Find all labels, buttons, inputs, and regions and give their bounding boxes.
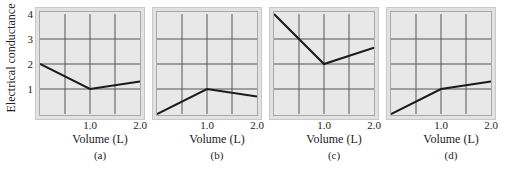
y-tick-3: 3 [25,34,33,45]
y-axis-label: Electrical conductance [4,3,19,113]
x-tick-2-b: 2.0 [245,120,269,131]
panel-label-b: (b) [162,150,272,161]
x-axis-label-a: Volume (L) [45,133,155,145]
panel-label-a: (a) [45,150,155,161]
chart-panel-a [35,7,145,120]
x-axis-label-c: Volume (L) [279,133,389,145]
x-tick-1-b: 1.0 [195,120,219,131]
y-tick-1: 1 [25,84,33,95]
chart-panel-d [386,7,496,120]
plot-area [274,13,374,115]
x-tick-1-d: 1.0 [429,120,453,131]
panel-label-c: (c) [279,150,389,161]
chart-panel-c [269,7,379,120]
y-tick-4: 4 [25,9,33,20]
x-tick-2-c: 2.0 [362,120,386,131]
x-tick-2-d: 2.0 [479,120,503,131]
x-tick-1-c: 1.0 [312,120,336,131]
chart-panel-b [152,7,262,120]
x-tick-1-a: 1.0 [78,120,102,131]
x-axis-label-d: Volume (L) [396,133,506,145]
plot-area [40,13,140,115]
y-tick-2: 2 [25,59,33,70]
plot-area [157,13,257,115]
x-tick-2-a: 2.0 [128,120,152,131]
x-axis-label-b: Volume (L) [162,133,272,145]
plot-area [391,13,491,115]
panel-label-d: (d) [396,150,506,161]
